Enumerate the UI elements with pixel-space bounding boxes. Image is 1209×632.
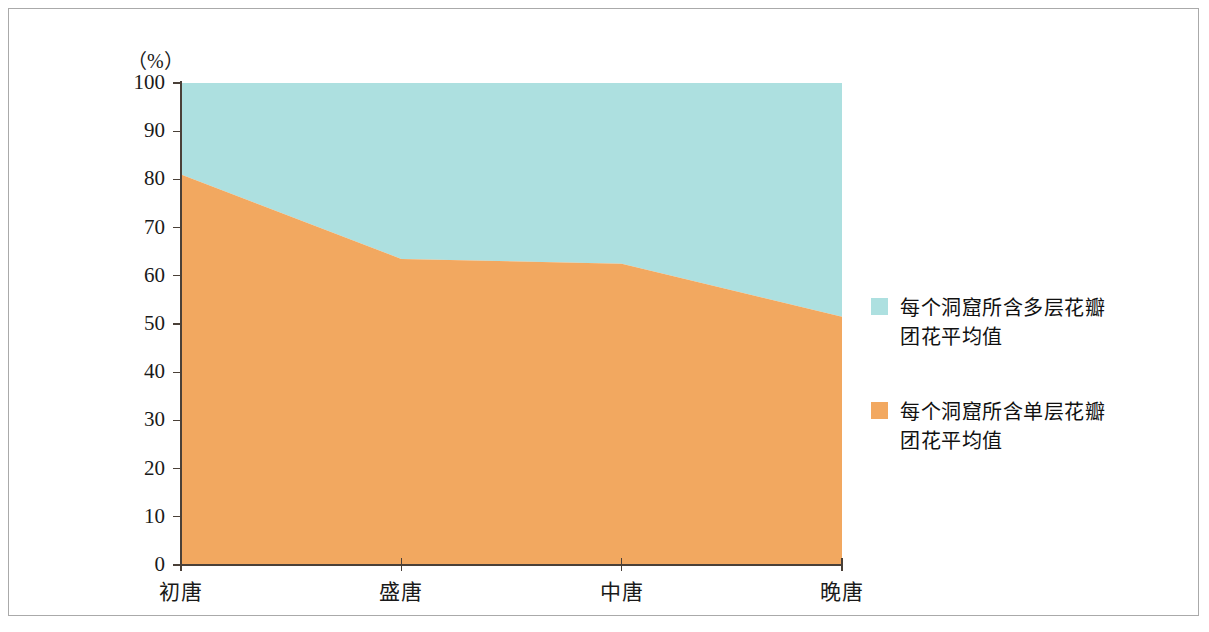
y-axis-tick-label: 70 [121, 217, 165, 238]
y-axis-tick-label: 90 [121, 120, 165, 141]
y-axis-tick [173, 131, 181, 132]
legend-item: 每个洞窟所含多层花瓣 团花平均值 [871, 294, 1191, 352]
stacked-area-svg [181, 83, 842, 565]
x-axis-tick [401, 558, 402, 571]
x-axis-tick-label: 中唐 [562, 575, 682, 605]
y-axis-tick [173, 323, 181, 324]
y-axis-tick-label: 0 [121, 554, 165, 575]
y-axis-tick [173, 468, 181, 469]
chart-page: （%） 0102030405060708090100 初唐盛唐中唐晚唐 每个洞窟… [0, 0, 1209, 632]
figure-frame: （%） 0102030405060708090100 初唐盛唐中唐晚唐 每个洞窟… [8, 8, 1199, 616]
y-axis-tick-label: 100 [121, 72, 165, 93]
y-axis-tick [173, 82, 181, 83]
y-axis-tick-label: 30 [121, 409, 165, 430]
y-axis-tick [173, 179, 181, 180]
legend-label: 每个洞窟所含单层花瓣 团花平均值 [900, 398, 1105, 456]
y-axis-tick-label: 50 [121, 313, 165, 334]
y-axis-tick-label: 20 [121, 458, 165, 479]
y-axis-tick [173, 372, 181, 373]
x-axis-tick-label: 晚唐 [782, 575, 902, 605]
x-axis-tick [841, 558, 842, 571]
y-axis-tick-label: 80 [121, 168, 165, 189]
y-axis-tick [173, 227, 181, 228]
y-axis-tick-label: 60 [121, 265, 165, 286]
y-axis-tick-label: 40 [121, 361, 165, 382]
chart-legend: 每个洞窟所含多层花瓣 团花平均值每个洞窟所含单层花瓣 团花平均值 [871, 294, 1191, 502]
x-axis-tick-label: 初唐 [121, 575, 241, 605]
legend-swatch-icon [871, 298, 888, 315]
y-axis-tick [173, 516, 181, 517]
x-axis-tick-label: 盛唐 [341, 575, 461, 605]
legend-swatch-icon [871, 402, 888, 419]
x-axis-tick [180, 558, 181, 571]
legend-item: 每个洞窟所含单层花瓣 团花平均值 [871, 398, 1191, 456]
y-axis-tick [173, 420, 181, 421]
y-axis-tick [173, 275, 181, 276]
x-axis-tick [621, 558, 622, 571]
legend-label: 每个洞窟所含多层花瓣 团花平均值 [900, 294, 1105, 352]
plot-area [181, 83, 842, 565]
x-axis-line [180, 564, 843, 566]
y-axis-tick-label: 10 [121, 506, 165, 527]
